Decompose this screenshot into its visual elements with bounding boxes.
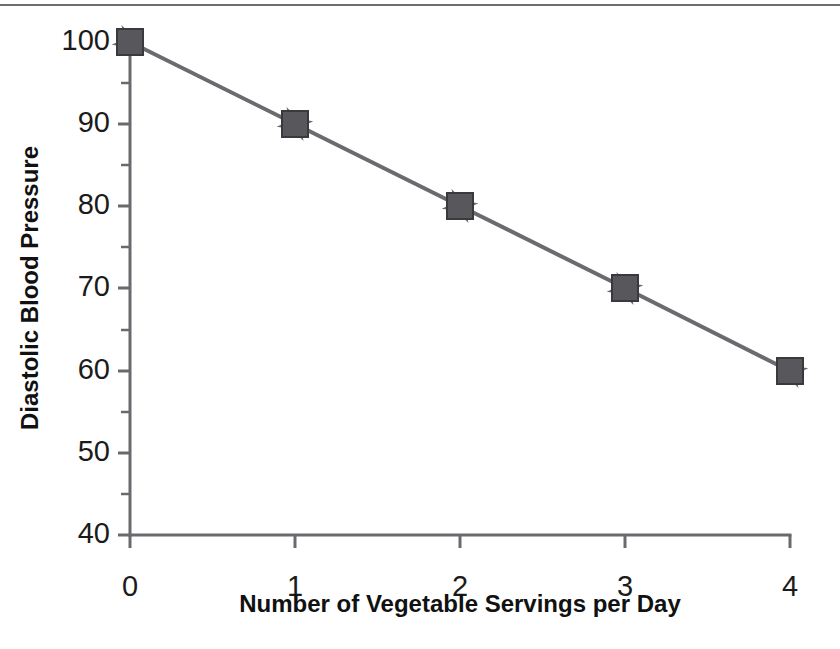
y-tick-label-60: 60 — [78, 353, 110, 385]
data-point-marker-1[interactable] — [282, 111, 308, 137]
data-point-marker-4[interactable] — [777, 358, 803, 384]
data-markers-group — [117, 29, 803, 384]
data-point-marker-0[interactable] — [117, 29, 143, 55]
data-point-marker-3[interactable] — [612, 275, 638, 301]
x-tick-label-4: 4 — [782, 570, 798, 602]
series-segment-0-1 — [130, 42, 295, 124]
y-axis-tick-labels: 100 90 80 70 60 50 40 — [62, 24, 110, 549]
y-tick-label-80: 80 — [78, 188, 110, 220]
x-axis-title: Number of Vegetable Servings per Day — [239, 590, 681, 617]
series-segment-1-2 — [295, 124, 460, 206]
chart-figure: 100 90 80 70 60 50 40 0 1 2 3 4 — [0, 0, 840, 649]
series-segment-3-4 — [625, 288, 790, 371]
y-tick-label-40: 40 — [78, 517, 110, 549]
y-tick-label-70: 70 — [78, 270, 110, 302]
y-axis-title: Diastolic Blood Pressure — [16, 146, 43, 430]
y-tick-label-90: 90 — [78, 106, 110, 138]
x-axis-ticks — [130, 535, 790, 548]
series-segment-2-3 — [460, 206, 625, 288]
y-tick-label-100: 100 — [62, 24, 110, 56]
y-tick-label-50: 50 — [78, 435, 110, 467]
y-axis-major-ticks — [118, 42, 130, 535]
axes-group — [130, 42, 790, 535]
data-point-marker-2[interactable] — [447, 193, 473, 219]
x-tick-label-0: 0 — [122, 570, 138, 602]
line-chart-plot: 100 90 80 70 60 50 40 0 1 2 3 4 — [0, 0, 840, 649]
